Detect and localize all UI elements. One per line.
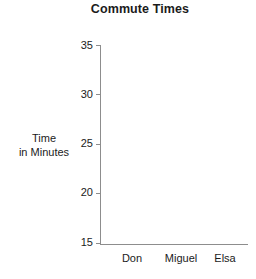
y-axis-title-line-2: in Minutes bbox=[8, 146, 80, 160]
y-tick-mark-15 bbox=[96, 243, 101, 244]
y-tick-mark-30 bbox=[96, 94, 101, 95]
y-tick-label-15: 15 bbox=[53, 237, 93, 248]
x-category-label-miguel: Miguel bbox=[165, 252, 197, 264]
y-tick-mark-20 bbox=[96, 193, 101, 194]
x-category-label-don: Don bbox=[122, 252, 142, 264]
y-tick-label-20: 20 bbox=[53, 187, 93, 198]
plot-area bbox=[101, 45, 248, 244]
x-category-label-elsa: Elsa bbox=[214, 252, 235, 264]
chart-figure: Commute Times 35 30 25 20 15 Time in Min… bbox=[0, 0, 256, 279]
y-tick-mark-25 bbox=[96, 144, 101, 145]
chart-title: Commute Times bbox=[0, 2, 256, 16]
y-tick-label-35: 35 bbox=[53, 40, 93, 51]
y-tick-label-30: 30 bbox=[53, 89, 93, 100]
x-axis-line bbox=[100, 244, 248, 245]
y-axis-title-line-1: Time bbox=[8, 132, 80, 146]
y-tick-mark-35 bbox=[96, 45, 101, 46]
y-axis-title: Time in Minutes bbox=[8, 132, 80, 159]
y-axis-line bbox=[100, 45, 101, 245]
